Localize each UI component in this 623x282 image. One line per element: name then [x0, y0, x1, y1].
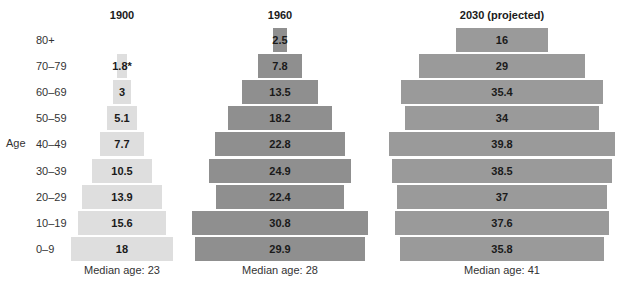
age-label: 10–19 — [36, 211, 67, 237]
bar: 34 — [405, 106, 599, 130]
bar: 5.1 — [107, 106, 136, 130]
bar: 10.5 — [92, 159, 152, 183]
bar: 13.9 — [82, 185, 161, 209]
bar: 30.8 — [192, 211, 368, 235]
bar: 22.4 — [216, 185, 344, 209]
panel-title: 2030 (projected) — [460, 9, 544, 21]
bar: 37.6 — [395, 211, 609, 235]
bar: 29.9 — [195, 237, 365, 261]
panel-title: 1900 — [110, 9, 134, 21]
median-age-label: Median age: 28 — [242, 264, 318, 276]
age-label: 40–49 — [36, 132, 67, 158]
bar: 39.8 — [389, 132, 616, 156]
bar: 35.4 — [401, 80, 603, 104]
age-label: 50–59 — [36, 106, 67, 132]
age-label: 20–29 — [36, 185, 67, 211]
age-label: 0–9 — [36, 237, 54, 263]
bar: 18 — [71, 237, 174, 261]
bar: 15.6 — [78, 211, 167, 235]
bar: 2.5 — [273, 28, 287, 52]
bar: 18.2 — [228, 106, 332, 130]
bar: 13.5 — [242, 80, 319, 104]
bar: 3 — [113, 80, 130, 104]
bar: 7.8 — [258, 54, 302, 78]
bar: 7.7 — [100, 132, 144, 156]
bar: 22.8 — [215, 132, 345, 156]
age-label: 60–69 — [36, 80, 67, 106]
median-age-label: Median age: 23 — [84, 264, 160, 276]
bar: 35.8 — [400, 237, 604, 261]
panel-title: 1960 — [268, 9, 292, 21]
bar: 38.5 — [392, 159, 611, 183]
bar: 16 — [456, 28, 547, 52]
age-label: 30–39 — [36, 159, 67, 185]
y-axis-label: Age — [6, 137, 26, 149]
bar: 24.9 — [209, 159, 351, 183]
age-label: 80+ — [36, 28, 55, 54]
bar: 37 — [397, 185, 608, 209]
bar: 1.8* — [117, 54, 127, 78]
bar: 29 — [419, 54, 584, 78]
age-label: 70–79 — [36, 54, 67, 80]
median-age-label: Median age: 41 — [464, 264, 540, 276]
